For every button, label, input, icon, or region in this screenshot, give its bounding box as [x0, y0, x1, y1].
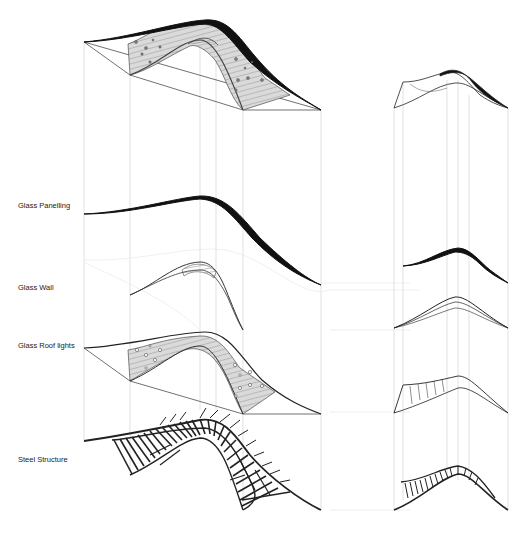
- guide-lines-right: [394, 80, 508, 510]
- layer-steel-structure: [84, 408, 321, 510]
- exploded-axonometric-drawing: [0, 0, 519, 549]
- elevation-glass-wall: [394, 297, 508, 328]
- elevation-glass-roof-lights: [394, 376, 508, 413]
- elevation-steel-structure: [394, 466, 508, 510]
- layer-glass-wall: [130, 262, 243, 330]
- assembly-top: [84, 20, 321, 110]
- layer-glass-roof-lights: [84, 332, 321, 414]
- elevation-assembly: [394, 70, 508, 108]
- elevation-glass-panelling: [403, 248, 508, 283]
